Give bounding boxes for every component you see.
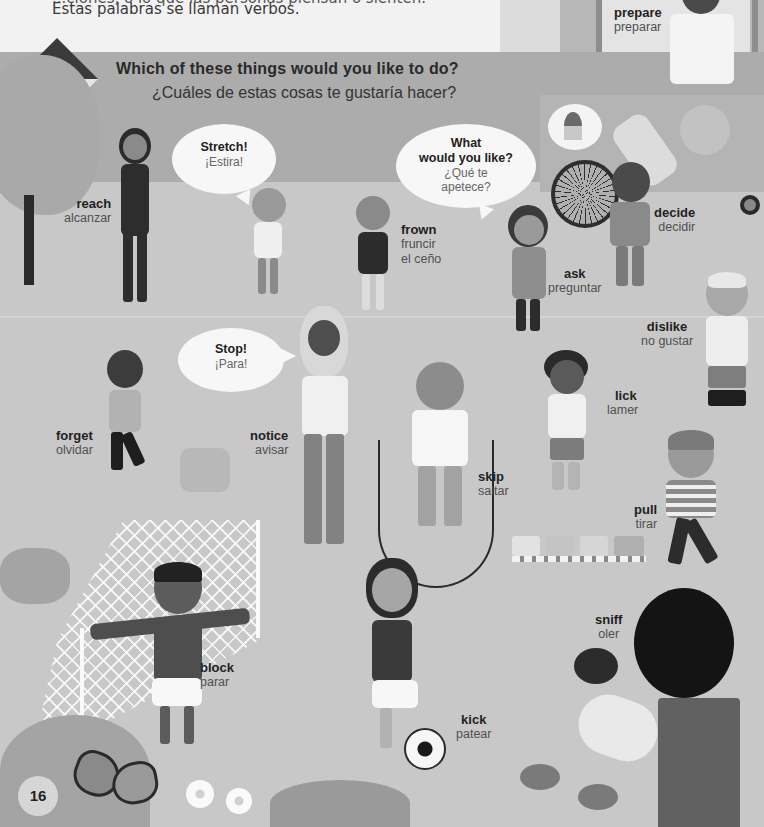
intro-text: ...ciones, o lo que las personas piensan… [52, 0, 299, 18]
intro-line-clipped: ...ciones, o lo que las personas piensan… [52, 0, 426, 7]
goal-post-right [256, 520, 260, 638]
tree-trunk [24, 195, 34, 285]
flower-icon [520, 764, 560, 790]
goal-post-left [80, 628, 84, 720]
label-ask: ask preguntar [548, 266, 602, 296]
question-english: Which of these things would you like to … [116, 60, 459, 78]
tree-foliage [0, 55, 100, 215]
label-prepare: prepare preparar [614, 5, 662, 35]
speech-bubble-what: What would you like? ¿Qué te apetece? [396, 124, 536, 208]
label-sniff: sniff oler [595, 612, 622, 642]
wheel-icon [551, 160, 619, 228]
flower-icon [574, 648, 618, 684]
page-number: 16 [18, 776, 58, 816]
cart-wheel-icon [740, 195, 760, 215]
thought-bubble [548, 104, 602, 150]
label-pull: pull tirar [634, 502, 657, 532]
question-spanish: ¿Cuáles de estas cosas te gustaría hacer… [152, 84, 456, 102]
speech-bubble-stretch: Stretch! ¡Estira! [172, 124, 276, 194]
label-block: block parar [200, 660, 234, 690]
label-kick: kick patear [456, 712, 491, 742]
daisy-icon [186, 780, 214, 808]
daisy-icon [226, 788, 252, 814]
jacket-icon [180, 448, 230, 492]
flower-icon [578, 784, 618, 810]
label-notice: notice avisar [250, 428, 288, 458]
label-lick: lick lamer [607, 388, 638, 418]
label-dislike: dislike no gustar [641, 319, 693, 349]
soccer-ball-icon [404, 728, 446, 770]
bush-center [270, 780, 410, 827]
label-frown: frown fruncir el ceño [401, 222, 441, 267]
steps-scenery [500, 0, 560, 52]
butterfly-icon [74, 752, 160, 808]
label-reach: reach alcanzar [64, 196, 111, 226]
label-skip: skip saltar [478, 469, 509, 499]
label-decide: decide decidir [654, 205, 695, 235]
speech-bubble-stop: Stop! ¡Para! [178, 328, 284, 392]
ground-divider [0, 316, 764, 318]
bush-back [0, 548, 70, 604]
ice-cream-scoop-icon [680, 105, 730, 155]
toy-train-icon [512, 532, 646, 562]
label-forget: forget olvidar [56, 428, 93, 458]
